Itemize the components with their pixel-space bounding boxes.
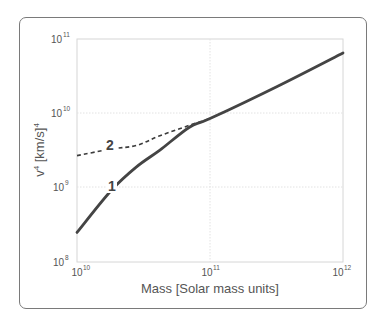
curve-2-label: 2 — [106, 137, 114, 153]
x-tick-1e10-exp: 10 — [83, 264, 91, 271]
x-tick-1e10-base: 10 — [71, 267, 83, 278]
y-tick-1e8-base: 10 — [53, 257, 65, 268]
y-tick-1e10-base: 10 — [51, 108, 63, 119]
y-tick-1e8-exp: 8 — [65, 254, 69, 261]
x-tick-1e11-exp: 11 — [213, 264, 220, 271]
y-tick-labels: 10 8 10 9 10 10 10 11 — [51, 31, 71, 268]
y-tick-1e11-exp: 11 — [63, 31, 70, 38]
y-tick-1e11-base: 10 — [51, 34, 63, 45]
y-tick-1e9-base: 10 — [53, 182, 65, 193]
y-axis-label-text: v4 [km/s]4 — [32, 123, 47, 177]
x-tick-1e12-base: 10 — [332, 267, 344, 278]
x-tick-labels: 10 10 10 11 10 12 — [71, 264, 351, 278]
y-tick-1e10-exp: 10 — [63, 105, 71, 112]
y-axis-label: v4 [km/s]4 — [32, 123, 47, 177]
x-tick-1e12-exp: 12 — [344, 264, 352, 271]
x-tick-1e11-base: 10 — [201, 267, 213, 278]
x-axis-label: Mass [Solar mass units] — [141, 281, 279, 296]
curve-1-label: 1 — [108, 178, 116, 194]
y-label-unit: [km/s] — [32, 128, 47, 166]
y-label-unit-sup: 4 — [32, 123, 41, 128]
y-tick-1e9-exp: 9 — [65, 179, 69, 186]
chart: 10 8 10 9 10 10 10 11 10 10 10 11 10 12 … — [0, 0, 386, 330]
